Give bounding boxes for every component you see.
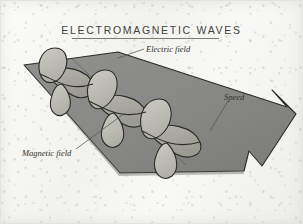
figure-title: ELECTROMAGNETIC WAVES <box>0 24 303 36</box>
label-magnetic-field: Magnetic field <box>22 148 71 158</box>
label-electric-field: Electric field <box>146 44 190 54</box>
title-underline-rule <box>72 38 219 39</box>
figure-canvas: ELECTROMAGNETIC WAVES Electric field Spe… <box>0 0 303 224</box>
label-speed: Speed <box>224 92 244 102</box>
